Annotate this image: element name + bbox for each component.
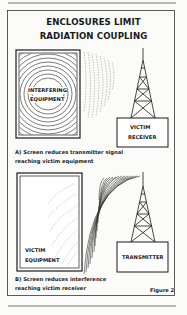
panel-a [0, 42, 168, 147]
interfering-equipment-enclosure [0, 42, 100, 146]
victim-receiver-label-2: RECEIVER [128, 134, 156, 141]
victim-receiver-label-1: VICTIM [130, 124, 150, 131]
receiver-antenna-tower [131, 48, 155, 118]
leaked-waves-a [84, 52, 114, 118]
interfering-equipment-label-1: INTERFERING [28, 87, 67, 94]
caption-a-line-2: reaching victim equipment [15, 157, 94, 165]
transmitter-antenna-tower [131, 172, 155, 242]
caption-b-line-2: reaching victim receiver [15, 284, 86, 292]
figure-number: Figure 2 [150, 287, 174, 293]
transmitter-label: TRANSMITTER [122, 254, 163, 261]
interfering-equipment-label-2: EQUIPMENT [30, 96, 64, 103]
caption-b-line-1: B) Screen reduces interference [15, 275, 106, 283]
title-line-2: RADIATION COUPLING [0, 31, 187, 41]
caption-a-line-1: A) Screen reduces transmitter signal [15, 148, 123, 156]
victim-receiver-box [117, 118, 168, 147]
title-line-1: ENCLOSURES LIMIT [0, 17, 187, 27]
victim-equipment-label-2: EQUIPMENT [25, 257, 59, 264]
victim-equipment-label-1: VICTIM [25, 247, 45, 254]
